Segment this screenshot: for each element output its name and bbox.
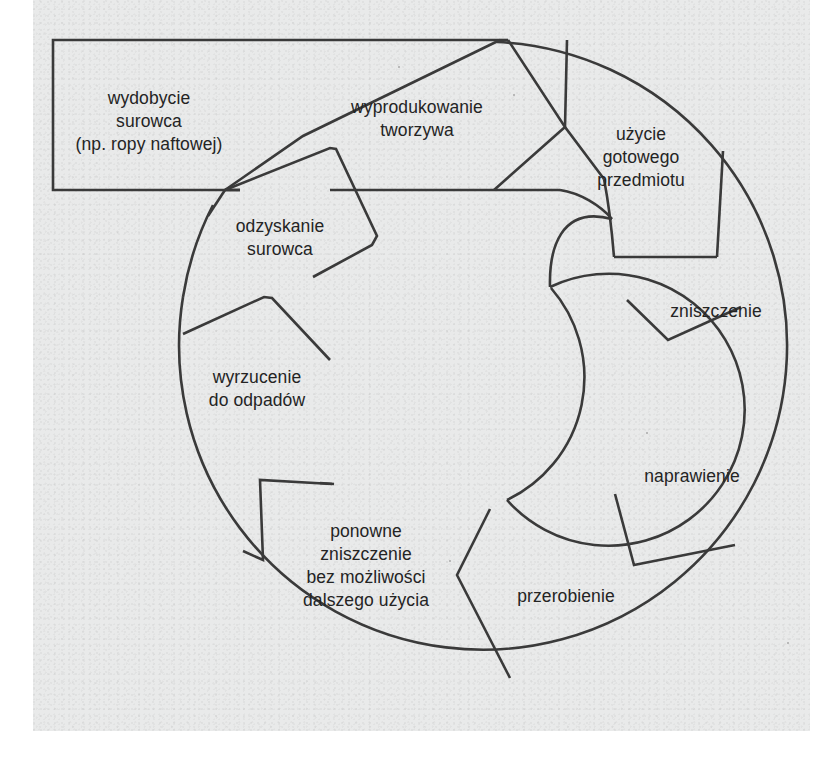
shape-przerobienie-divider [457,509,510,678]
shape-zniszczenie-divider [627,300,741,340]
shape-outer-ring-arc-topleft [183,205,213,297]
scan-speck [513,94,515,96]
shape-inner-ring-top-curve [560,190,612,219]
scan-speck [449,560,451,562]
shape-wyrzucenie-upper-divider [183,297,330,360]
shape-outer-ring-arc [179,42,787,650]
cycle-diagram-graphic [0,0,840,765]
shape-wyrzucenie-divider [320,483,334,484]
shape-uzycie-divider [565,40,604,179]
shape-inner-circle-arc [507,274,745,546]
figure-page: wydobycie surowca (np. ropy naftowej) wy… [0,0,840,765]
shape-chevron-notch-left [225,40,500,190]
shape-inner-circle-arc-upper [507,288,584,500]
shape-wydobycie-surowca [53,40,240,190]
shape-uzycie-right-edge [717,151,723,257]
scan-speck [398,66,400,68]
scan-speck [787,642,789,644]
scan-speck [646,432,648,434]
shape-wyprodukowanie-chevron-point [494,40,565,190]
shape-odzyskanie-surowca [225,148,377,277]
